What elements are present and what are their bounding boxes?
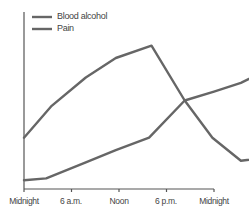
x-tick-label-6am: 6 a.m. [60, 196, 82, 206]
series-line-blood-alcohol [24, 46, 249, 170]
legend-label-pain: Pain [57, 23, 74, 33]
series-line-pain [24, 51, 249, 184]
line-chart [0, 0, 249, 219]
x-tick-label-noon: Noon [109, 196, 128, 206]
x-tick-label-6pm: 6 p.m. [155, 196, 177, 206]
x-tick-label-midnight-start: Midnight [9, 196, 39, 206]
series-lines [24, 46, 249, 184]
legend-label-blood-alcohol: Blood alcohol [57, 11, 107, 21]
x-tick-label-midnight-end: Midnight [199, 196, 229, 206]
